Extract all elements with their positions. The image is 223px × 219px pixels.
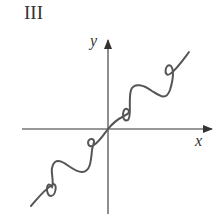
y-axis-label: y xyxy=(90,32,97,50)
x-axis-label: x xyxy=(195,132,202,150)
graph xyxy=(0,0,223,219)
